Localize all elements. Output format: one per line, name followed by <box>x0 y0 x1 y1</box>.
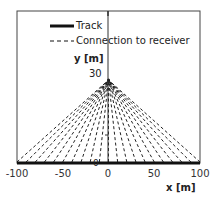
y-tick-0: 0 <box>93 158 99 168</box>
connection-line <box>17 80 109 162</box>
x-tick-neg50: -50 <box>55 168 71 179</box>
x-tick-50: 50 <box>148 168 161 179</box>
y-tick-30: 30 <box>89 68 102 79</box>
connection-line <box>35 80 108 162</box>
x-tick-100: 100 <box>190 168 209 179</box>
y-axis-title: y [m] <box>74 53 104 64</box>
legend-track-label: Track <box>76 20 102 31</box>
connection-line <box>109 80 182 162</box>
legend-connection-label: Connection to receiver <box>76 35 190 46</box>
connection-line <box>109 80 201 162</box>
x-axis-title: x [m] <box>166 182 196 193</box>
connection-line <box>72 80 109 162</box>
connection-line <box>44 80 108 162</box>
x-tick-neg100: -100 <box>6 168 29 179</box>
connection-line <box>109 80 191 162</box>
connection-line <box>109 80 173 162</box>
connection-line <box>109 80 146 162</box>
connection-line <box>26 80 108 162</box>
x-tick-0: 0 <box>105 168 111 179</box>
